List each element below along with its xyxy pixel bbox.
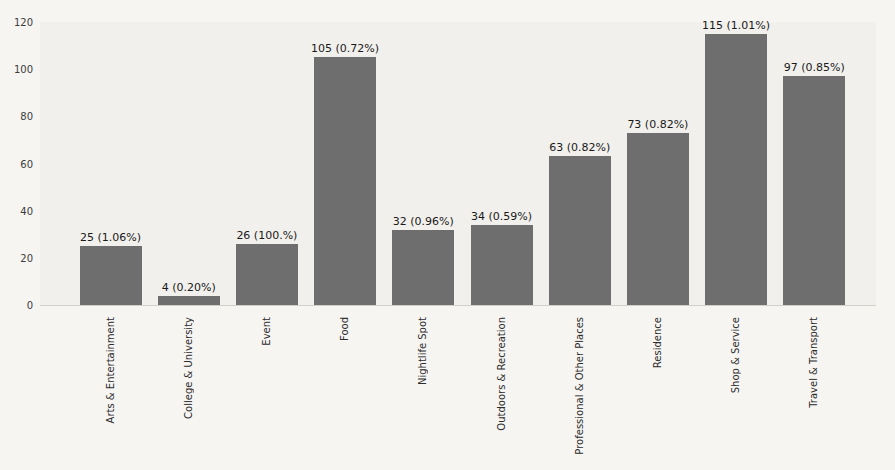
bar-value-label: 32 (0.96%) (393, 215, 454, 229)
x-tick-label: Arts & Entertainment (104, 317, 117, 423)
bar-chart-figure: 020406080100120 25 (1.06%)4 (0.20%)26 (1… (0, 0, 895, 470)
bar (783, 76, 845, 305)
bar-value-label: 115 (1.01%) (702, 19, 770, 33)
x-tick-label: Travel & Transport (807, 317, 820, 408)
bar (471, 225, 533, 305)
y-tick-label: 40 (3, 205, 33, 216)
bar (236, 244, 298, 305)
bar (158, 296, 220, 305)
bar (627, 133, 689, 305)
y-tick-label: 60 (3, 158, 33, 169)
x-tick-label: Professional & Other Places (573, 317, 586, 455)
x-tick-label: Nightlife Spot (416, 317, 429, 385)
y-tick-label: 0 (3, 300, 33, 311)
x-tick-label: Shop & Service (729, 317, 742, 393)
x-tick-label: Event (260, 317, 273, 346)
bar-value-label: 97 (0.85%) (784, 61, 845, 75)
y-tick-label: 120 (3, 17, 33, 28)
bar (314, 57, 376, 305)
bar-value-label: 105 (0.72%) (311, 42, 379, 56)
x-tick-label: College & University (182, 317, 195, 419)
bar (80, 246, 142, 305)
bar-value-label: 73 (0.82%) (627, 118, 688, 132)
y-tick-label: 80 (3, 111, 33, 122)
bar-value-label: 25 (1.06%) (80, 231, 141, 245)
bar (705, 34, 767, 305)
bar-value-label: 63 (0.82%) (549, 141, 610, 155)
bar-value-label: 34 (0.59%) (471, 210, 532, 224)
y-tick-label: 20 (3, 252, 33, 263)
x-tick-label: Food (338, 317, 351, 341)
x-tick-label: Outdoors & Recreation (495, 317, 508, 431)
bar-value-label: 26 (100.%) (236, 229, 297, 243)
bar (549, 156, 611, 305)
x-tick-label: Residence (651, 317, 664, 368)
y-tick-label: 100 (3, 64, 33, 75)
bar (392, 230, 454, 305)
bar-value-label: 4 (0.20%) (162, 281, 216, 295)
